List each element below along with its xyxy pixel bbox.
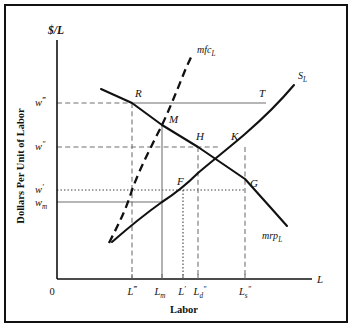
x-tick-label-L1: L′ <box>177 285 186 297</box>
point-label-K: K <box>230 130 239 142</box>
curve-mfc-L <box>109 55 192 243</box>
y-tick-label-w2: w″ <box>35 140 46 152</box>
point-label-M: M <box>168 113 179 125</box>
point-label-T: T <box>259 87 266 99</box>
x-tick-label-Lm: Lm <box>153 286 165 300</box>
point-label-G: G <box>250 177 258 189</box>
curve-label-mfc-L: mfcL <box>197 44 215 58</box>
curve-label-mrp-L: mrpL <box>262 230 282 244</box>
y-tick-label-w3: w‴ <box>35 96 46 108</box>
y-tick-label-w1: w′ <box>35 183 44 195</box>
curve-label-S-L: SL <box>298 70 307 84</box>
y-axis-top-label: $/L <box>47 24 64 36</box>
y-axis-title: Dollars Per Unit of Labor <box>15 108 26 224</box>
x-tick-label-L3: L‴ <box>126 285 137 297</box>
x-tick-label-Ld: Ld″ <box>193 285 207 300</box>
point-label-R: R <box>134 87 142 99</box>
figure-frame: mfcL SL mrpL R M T H K F G w‴ w″ w′ wm L… <box>4 4 348 323</box>
x-tick-label-Ls: Ls″ <box>238 285 252 300</box>
point-label-F: F <box>176 175 184 187</box>
origin-label: 0 <box>49 286 54 297</box>
x-axis-end-label: L <box>316 273 323 285</box>
x-axis-title: Labor <box>170 304 198 315</box>
point-label-H: H <box>195 130 205 142</box>
labor-market-chart: mfcL SL mrpL R M T H K F G w‴ w″ w′ wm L… <box>6 6 346 321</box>
curve-mrp-L <box>101 89 287 226</box>
y-tick-label-wm: wm <box>35 197 47 211</box>
